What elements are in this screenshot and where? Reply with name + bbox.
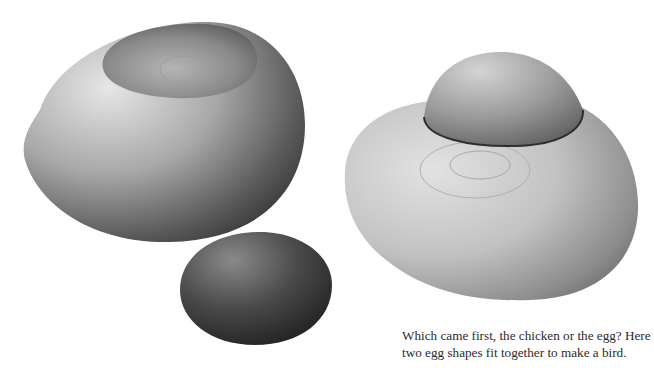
hollow-egg-bowl [24,22,305,242]
figure-caption: Which came first, the chicken or the egg… [402,328,652,361]
bird-form [345,52,638,300]
wooden-eggs-photo [0,0,654,379]
small-egg [180,232,332,345]
